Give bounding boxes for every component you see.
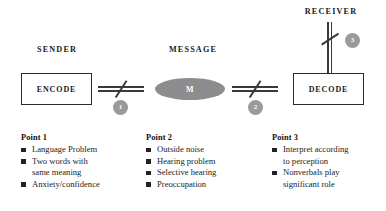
node-encode: ENCODE (21, 73, 92, 105)
list-item: Interpret according to perception (272, 144, 386, 167)
badge-3: 3 (345, 33, 360, 48)
node-message-label: M (186, 85, 194, 94)
node-encode-label: ENCODE (37, 85, 77, 94)
point-column-3-list: Interpret according to perception Nonver… (272, 144, 386, 190)
bullet-square-icon (21, 159, 26, 164)
point-column-1-list: Language Problem Two words with same mea… (21, 144, 139, 190)
list-item-line1: Selective hearing (157, 167, 216, 177)
point-column-2-title: Point 2 (146, 133, 264, 142)
point-column-1: Point 1 Language Problem Two words with … (21, 133, 139, 190)
list-item-line1: Interpret according (283, 144, 349, 154)
list-item-line1: Outside noise (157, 144, 204, 154)
label-message: MESSAGE (155, 45, 231, 54)
list-item-line1: Language Problem (32, 144, 97, 154)
point-column-1-title: Point 1 (21, 133, 139, 142)
list-item-line2: significant role (283, 179, 386, 191)
list-item-line2: to perception (283, 156, 386, 168)
barrier-3-icon (327, 22, 332, 73)
list-item: Selective hearing (146, 167, 264, 179)
node-message: M (155, 78, 225, 100)
point-column-2-list: Outside noise Hearing problem Selective … (146, 144, 264, 190)
node-decode: DECODE (293, 73, 364, 105)
bullet-square-icon (21, 182, 26, 187)
node-decode-label: DECODE (309, 85, 349, 94)
bullet-square-icon (272, 148, 277, 153)
badge-1: 1 (113, 100, 128, 115)
point-column-2: Point 2 Outside noise Hearing problem Se… (146, 133, 264, 190)
list-item-line1: Preoccupation (157, 179, 206, 189)
bullet-square-icon (146, 182, 151, 187)
list-item: Nonverbals play significant role (272, 167, 386, 190)
list-item: Anxiety/confidence (21, 179, 139, 191)
label-sender: SENDER (21, 45, 93, 54)
bullet-square-icon (146, 171, 151, 176)
point-column-3: Point 3 Interpret according to perceptio… (272, 133, 386, 190)
list-item-line1: Two words with (32, 156, 88, 166)
bullet-square-icon (21, 148, 26, 153)
list-item-line1: Anxiety/confidence (32, 179, 100, 189)
badge-1-label: 1 (119, 104, 123, 111)
bullet-square-icon (146, 148, 151, 153)
list-item-line2: same meaning (32, 167, 139, 179)
list-item: Preoccupation (146, 179, 264, 191)
list-item-line1: Hearing problem (157, 156, 215, 166)
communication-process-diagram: SENDER MESSAGE RECEIVER ENCODE 1 M 2 3 D… (0, 0, 386, 211)
barrier-2-icon (232, 86, 278, 92)
badge-3-label: 3 (351, 37, 355, 44)
barrier-1-icon (98, 86, 144, 92)
badge-2-label: 2 (254, 104, 258, 111)
badge-2: 2 (248, 100, 263, 115)
list-item-line1: Nonverbals play (283, 167, 340, 177)
list-item: Language Problem (21, 144, 139, 156)
bullet-square-icon (146, 159, 151, 164)
list-item: Hearing problem (146, 156, 264, 168)
list-item: Outside noise (146, 144, 264, 156)
point-column-3-title: Point 3 (272, 133, 386, 142)
label-receiver: RECEIVER (296, 7, 366, 16)
list-item: Two words with same meaning (21, 156, 139, 179)
bullet-square-icon (272, 171, 277, 176)
